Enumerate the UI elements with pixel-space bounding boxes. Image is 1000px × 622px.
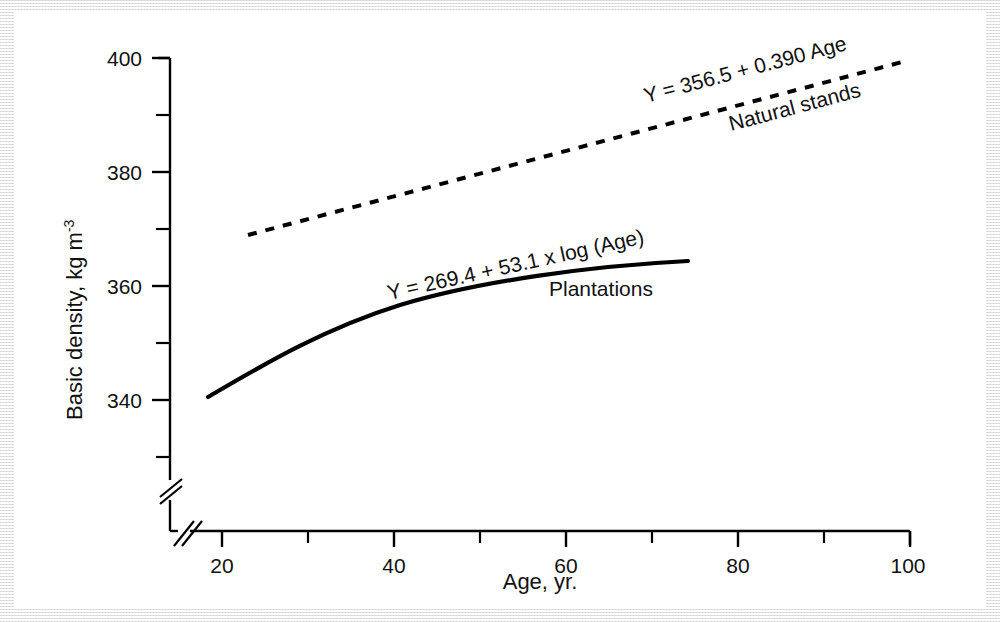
y-axis-title: Basic density, kg m-3 bbox=[61, 219, 87, 420]
y-tick-label-340: 340 bbox=[107, 389, 142, 412]
chart-plot: 400 380 360 340 20 40 60 80 100 Basic de… bbox=[0, 0, 1000, 622]
natural-stands-label: Natural stands bbox=[726, 78, 863, 135]
y-tick-label-360: 360 bbox=[107, 275, 142, 298]
figure-root: 400 380 360 340 20 40 60 80 100 Basic de… bbox=[0, 0, 1000, 622]
x-tick-label-20: 20 bbox=[210, 554, 233, 577]
x-tick-label-40: 40 bbox=[382, 554, 405, 577]
x-tick-label-100: 100 bbox=[890, 554, 925, 577]
x-tick-label-80: 80 bbox=[726, 554, 749, 577]
y-tick-label-380: 380 bbox=[107, 161, 142, 184]
plantations-label: Plantations bbox=[549, 277, 653, 300]
y-tick-label-400: 400 bbox=[107, 47, 142, 70]
series-natural-stands-line bbox=[248, 61, 906, 235]
x-axis-break-mark bbox=[174, 521, 202, 546]
x-axis-title: Age, yr. bbox=[503, 569, 578, 594]
natural-stands-label-group: Natural stands bbox=[726, 78, 863, 135]
y-axis-title-group: Basic density, kg m-3 bbox=[61, 219, 87, 420]
